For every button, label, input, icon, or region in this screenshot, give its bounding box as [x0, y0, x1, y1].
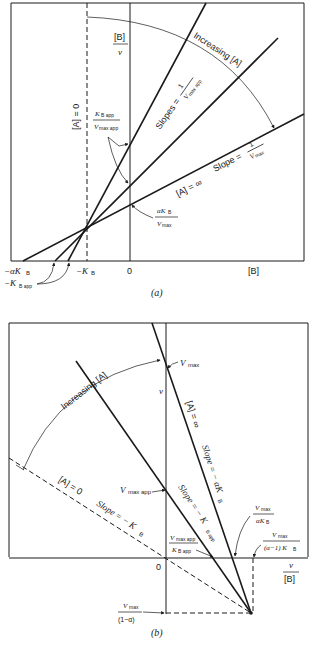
arrow-to-a-inf-intercept [132, 205, 153, 218]
num-sub: B app [101, 112, 114, 118]
sub: B app [205, 528, 217, 542]
arrow-to-vmax-alphakb [235, 516, 250, 556]
panel-b-vmaxapp-kbapp-label: V max app K B app [169, 534, 198, 554]
panel-a-y-label-den: v [118, 47, 122, 57]
num: V [170, 534, 175, 542]
panel-b-increasing-label: Increasing [A] [59, 370, 109, 412]
panel-b-line-a-inf [152, 323, 251, 613]
panel-b-vmaxapp-label: V [120, 485, 127, 495]
arrow-to-kbapp-1 [37, 263, 54, 284]
panel-b-slope-kb-label: Slope = − K B [94, 498, 147, 538]
arrow-to-kbapp-2 [37, 263, 69, 284]
panel-a-increasing-label: Increasing [A] [192, 30, 244, 68]
num: αK [157, 207, 166, 215]
panel-b-vmax-sub: max [188, 362, 199, 368]
text: Slope = − αK [200, 444, 225, 495]
den-sub: B app [178, 548, 191, 554]
neg-kb-sub: B [91, 270, 95, 276]
panel-a-line-steep [68, 3, 206, 261]
panel-b-vmax-label: V [180, 358, 187, 368]
num: V [123, 602, 128, 610]
num-sub: max app [176, 536, 195, 542]
panel-b-vmaxapp-sub: max app [128, 489, 152, 495]
num-sub: max [129, 604, 139, 610]
panel-a-intercept-app-label: K B app V max app [93, 110, 120, 131]
den: K [171, 546, 177, 554]
panel-b-vmax-alpha1kb-label: V max (α−1) K B [263, 531, 300, 552]
neg-kbapp-sub: B app [19, 283, 32, 289]
text: Slope = − K [95, 498, 139, 531]
slopes-den-sub: max app [187, 78, 203, 97]
panel-a-a-inf-label: [A] = ∞ [174, 177, 203, 198]
num-sub: B [168, 209, 172, 215]
den: (1−α) [118, 616, 135, 624]
panel-b-a-zero-label: [A] = 0 [57, 474, 84, 497]
panel-b-convergence-point [249, 611, 253, 615]
figure-canvas: [B] v [A] = 0 Increasing [A] Slopes = 1 … [0, 0, 316, 646]
panel-b-vmax-alphakb-label: V max αK B [253, 504, 274, 525]
arrow-to-vmax [168, 362, 178, 368]
slopes-text: Slopes = [153, 97, 181, 132]
den-sub: max [162, 222, 172, 228]
arrow-to-vmax-alpha1kb [254, 545, 261, 557]
neg-alpha-kb-label: −αK [4, 266, 22, 276]
arrow-to-vmax-1alpha [143, 612, 164, 613]
sub: B [138, 531, 145, 538]
panel-b-caption: (b) [151, 627, 163, 639]
panel-a-y-label-num: [B] [114, 32, 125, 42]
text: Slope = − K [176, 483, 210, 527]
neg-alpha-kb-sub: B [26, 270, 30, 276]
panel-b-y-axis-label: v [159, 386, 163, 396]
den: αK [256, 517, 265, 525]
panel-a-line-a-inf [23, 114, 304, 261]
panel-a-x-axis-label: [B] [248, 266, 259, 276]
panel-a-slopes-label: Slopes = 1 V max app [150, 70, 203, 134]
num: V [255, 504, 260, 512]
den-sub: B [293, 546, 297, 552]
neg-kb-label: −K [76, 266, 89, 276]
panel-a-alphakb-vmax-label: αK B V max [155, 207, 178, 228]
num: K [94, 110, 100, 118]
panel-b-origin-label: 0 [156, 562, 161, 572]
slopes-num: 1 [177, 82, 185, 89]
arrow-to-vmaxapp [152, 490, 165, 492]
panel-a-slope-label: Slope = 1 V max [210, 136, 269, 178]
den: (α−1) K [264, 544, 287, 552]
den-sub: max app [99, 125, 118, 131]
arrow-to-mid-intercept [108, 137, 128, 183]
slope-den-sub: max [254, 149, 266, 159]
arrow-to-upper-intercept [108, 137, 128, 146]
panel-a-frame [11, 3, 304, 112]
num-sub: max [278, 533, 288, 539]
panel-a-origin-label: 0 [127, 266, 132, 276]
num-sub: max [261, 506, 271, 512]
panel-b-x-axis-label-den: [B] [284, 574, 295, 584]
panel-a: [B] v [A] = 0 Increasing [A] Slopes = 1 … [4, 3, 304, 299]
panel-b-slope-kbapp-label: Slope = − K B app [176, 483, 222, 543]
num: V [272, 531, 277, 539]
den-sub: B [266, 519, 270, 525]
panel-a-a-zero-label: [A] = 0 [71, 104, 81, 130]
panel-b-vmax-1alpha-label: V max (1−α) [118, 602, 142, 624]
sub: B [216, 498, 223, 504]
panel-a-caption: (a) [151, 287, 163, 299]
arc-start-tick [16, 465, 24, 470]
panel-b-x-axis-label-num: v [289, 560, 293, 570]
panel-b: Increasing [A] V max v [A] = ∞ Slope = −… [9, 323, 308, 639]
neg-kbapp-label: −K [4, 278, 17, 288]
